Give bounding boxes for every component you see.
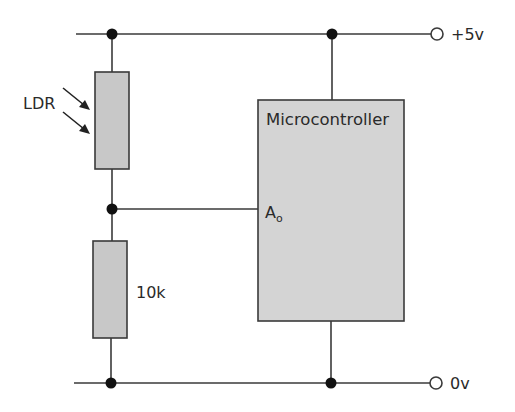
microcontroller: Microcontroller Ao bbox=[258, 34, 404, 383]
resistor-body bbox=[93, 241, 127, 338]
circuit-diagram: +5v 0v LDR 10k Microcontroller Ao bbox=[0, 0, 515, 412]
junction-dot-icon bbox=[327, 29, 338, 40]
light-arrows-icon bbox=[63, 88, 90, 134]
junction-dot-icon bbox=[107, 29, 118, 40]
resistor-component: 10k bbox=[93, 241, 166, 338]
analog-pin-subscript: o bbox=[276, 212, 283, 225]
ldr-body bbox=[95, 72, 129, 169]
microcontroller-body bbox=[258, 100, 404, 321]
junction-dot-icon bbox=[326, 378, 337, 389]
ground-terminal-icon bbox=[430, 377, 442, 389]
top-rail: +5v bbox=[76, 25, 484, 44]
junction-dot-icon bbox=[107, 204, 118, 215]
microcontroller-label: Microcontroller bbox=[266, 110, 389, 129]
positive-rail-label: +5v bbox=[451, 25, 484, 44]
junction-dot-icon bbox=[106, 378, 117, 389]
ldr-label: LDR bbox=[23, 94, 55, 113]
analog-pin-main: A bbox=[265, 203, 276, 222]
bottom-rail: 0v bbox=[74, 374, 470, 393]
resistor-label: 10k bbox=[136, 283, 166, 302]
ldr-component: LDR bbox=[23, 72, 129, 169]
ground-rail-label: 0v bbox=[450, 374, 470, 393]
positive-terminal-icon bbox=[431, 28, 443, 40]
